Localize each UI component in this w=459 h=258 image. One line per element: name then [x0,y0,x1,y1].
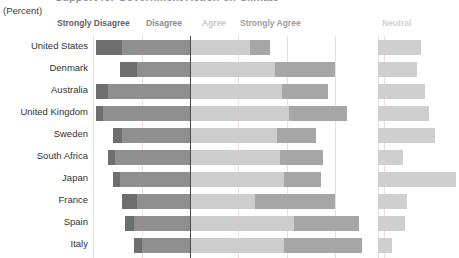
segment-strongly-disagree [125,216,135,231]
chart-row: Spain [0,212,459,234]
neutral-bar [378,172,456,187]
segment-disagree [122,128,190,143]
segment-strongly-disagree [120,62,137,77]
chart-container: Support for Government Action on Climate… [0,0,459,258]
segment-disagree [120,172,190,187]
neutral-bar [378,238,392,253]
stacked-bar [96,106,348,121]
legend-item-strongly-disagree: Strongly Disagree [57,18,130,28]
category-label: Denmark [49,62,88,73]
segment-agree [190,150,280,165]
segment-strongly-agree [250,40,269,55]
segment-disagree [108,84,190,99]
segment-disagree [103,106,190,121]
category-label: France [58,194,88,205]
segment-disagree [142,238,190,253]
segment-strongly-disagree [96,106,103,121]
segment-agree [190,216,294,231]
chart-row: Italy [0,234,459,256]
segment-strongly-agree [282,84,328,99]
category-label: United States [31,40,88,51]
category-label: South Africa [37,150,88,161]
segment-agree [190,84,282,99]
neutral-bar [378,84,425,99]
segment-strongly-disagree [96,84,108,99]
chart-row: United Kingdom [0,102,459,124]
neutral-bar [378,128,435,143]
legend-item-agree: Agree [202,18,226,28]
segment-strongly-disagree [113,128,123,143]
segment-strongly-agree [294,216,359,231]
segment-agree [190,128,277,143]
stacked-bar [120,62,335,77]
chart-row: France [0,190,459,212]
legend-item-strongly-agree: Strongly Agree [240,18,301,28]
segment-disagree [115,150,190,165]
segment-strongly-disagree [108,150,115,165]
zero-axis-line [190,36,191,258]
segment-agree [190,172,284,187]
segment-strongly-agree [277,128,316,143]
chart-row: South Africa [0,146,459,168]
plot-area: United StatesDenmarkAustraliaUnited King… [0,31,459,258]
stacked-bar [125,216,360,231]
neutral-bar [378,216,405,231]
legend-item-neutral: Neutral [382,18,411,28]
stacked-bar [134,238,361,253]
chart-legend: Strongly Disagree Disagree Agree Strongl… [0,18,459,31]
segment-disagree [137,194,190,209]
segment-disagree [122,40,190,55]
segment-strongly-disagree [122,194,137,209]
segment-strongly-agree [284,238,361,253]
neutral-bar [378,150,403,165]
neutral-bar [378,194,407,209]
segment-strongly-agree [275,62,336,77]
chart-title: Support for Government Action on Climate [55,0,385,3]
chart-row: Sweden [0,124,459,146]
category-label: United Kingdom [20,106,88,117]
neutral-bar [378,106,429,121]
chart-row: Japan [0,168,459,190]
segment-agree [190,194,255,209]
stacked-bar [113,172,321,187]
neutral-bar [378,40,421,55]
segment-disagree [134,216,190,231]
chart-row: Denmark [0,58,459,80]
category-label: Spain [64,216,88,227]
segment-strongly-agree [289,106,347,121]
segment-agree [190,62,275,77]
segment-strongly-agree [255,194,335,209]
neutral-bar [378,62,417,77]
chart-row: United States [0,36,459,58]
segment-strongly-disagree [96,40,123,55]
category-label: Japan [62,172,88,183]
segment-strongly-disagree [134,238,141,253]
legend-item-disagree: Disagree [146,18,182,28]
segment-strongly-agree [284,172,320,187]
segment-agree [190,238,284,253]
stacked-bar [108,150,323,165]
stacked-bar [96,40,270,55]
category-label: Australia [51,84,88,95]
stacked-bar [96,84,328,99]
chart-row: Australia [0,80,459,102]
segment-strongly-disagree [113,172,120,187]
segment-strongly-agree [280,150,324,165]
segment-disagree [137,62,190,77]
category-label: Sweden [54,128,88,139]
stacked-bar [113,128,316,143]
segment-agree [190,40,251,55]
segment-agree [190,106,289,121]
chart-subtitle: (Percent) [3,5,42,16]
category-label: Italy [71,238,88,249]
stacked-bar [122,194,335,209]
